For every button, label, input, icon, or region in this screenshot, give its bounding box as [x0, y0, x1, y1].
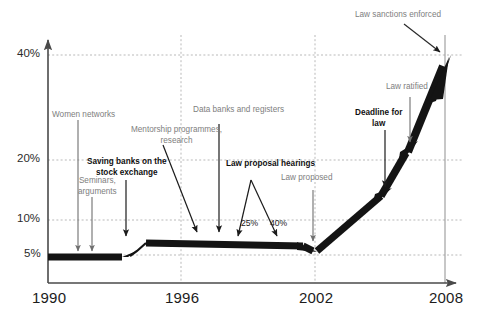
value-label-40: 40% — [270, 218, 287, 228]
annotation-data-banks: Data banks and registers — [193, 105, 284, 116]
y-tick-10: 10% — [17, 212, 40, 224]
annotation-deadline: Deadline for law — [355, 108, 402, 129]
x-tick-1996: 1996 — [165, 289, 199, 306]
value-label-25: 25% — [241, 218, 258, 228]
annotation-deadline-line2: law — [355, 119, 402, 130]
annotation-mentorship-line1: Mentorship programmes, — [131, 125, 222, 136]
chart-figure: 40% 20% 10% 5% 1990 1996 2002 2008 Women… — [0, 0, 487, 318]
annotation-mentorship-line2: research — [131, 136, 222, 147]
annotation-law-proposed: Law proposed — [281, 173, 332, 184]
annotation-law-hearings: Law proposal hearings — [226, 159, 315, 170]
y-tick-20: 20% — [17, 152, 40, 164]
y-tick-40: 40% — [17, 47, 40, 59]
annotation-law-ratified: Law ratified — [386, 82, 428, 93]
y-tick-5: 5% — [24, 247, 41, 259]
annotation-saving-banks: Saving banks on the stock exchange — [87, 157, 167, 178]
annotation-deadline-line1: Deadline for — [355, 108, 402, 119]
annotation-seminars: Seminars, arguments — [78, 176, 117, 197]
annotation-women-networks: Women networks — [52, 110, 115, 121]
x-tick-1990: 1990 — [32, 289, 66, 306]
annotation-mentorship: Mentorship programmes, research — [131, 125, 222, 146]
annotation-seminars-line2: arguments — [78, 187, 117, 198]
x-tick-2008: 2008 — [429, 289, 463, 306]
annotation-law-sanctions: Law sanctions enforced — [355, 10, 441, 21]
annotation-saving-banks-line1: Saving banks on the — [87, 157, 167, 168]
x-tick-2002: 2002 — [299, 289, 333, 306]
annotation-saving-banks-line2: stock exchange — [87, 168, 167, 179]
